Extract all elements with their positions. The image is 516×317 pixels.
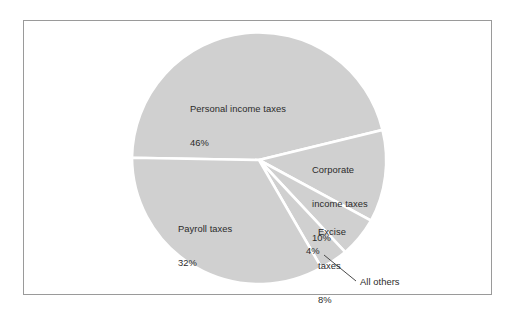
slice-label-excise-taxes-percent: 8% xyxy=(318,294,346,305)
slice-label-personal-income-taxes-percent: 46% xyxy=(190,137,286,148)
slice-label-excise-taxes-name2: taxes xyxy=(318,260,346,271)
slice-label-payroll-taxes-name: Payroll taxes xyxy=(178,223,232,234)
slice-label-personal-income-taxes: Personal income taxes 46% xyxy=(190,80,286,160)
slice-label-excise-taxes-name1: Excise xyxy=(318,226,346,237)
slice-label-payroll-taxes: Payroll taxes 32% xyxy=(178,200,232,280)
slice-label-payroll-taxes-percent: 32% xyxy=(178,257,232,268)
slice-label-personal-income-taxes-name: Personal income taxes xyxy=(190,103,286,114)
slice-label-all-others-callout: All others xyxy=(360,276,400,287)
slice-label-all-others-percent: 4% xyxy=(306,245,320,256)
slice-label-excise-taxes: Excise taxes 8% xyxy=(318,203,346,317)
slice-label-corporate-income-taxes-name1: Corporate xyxy=(312,164,368,175)
